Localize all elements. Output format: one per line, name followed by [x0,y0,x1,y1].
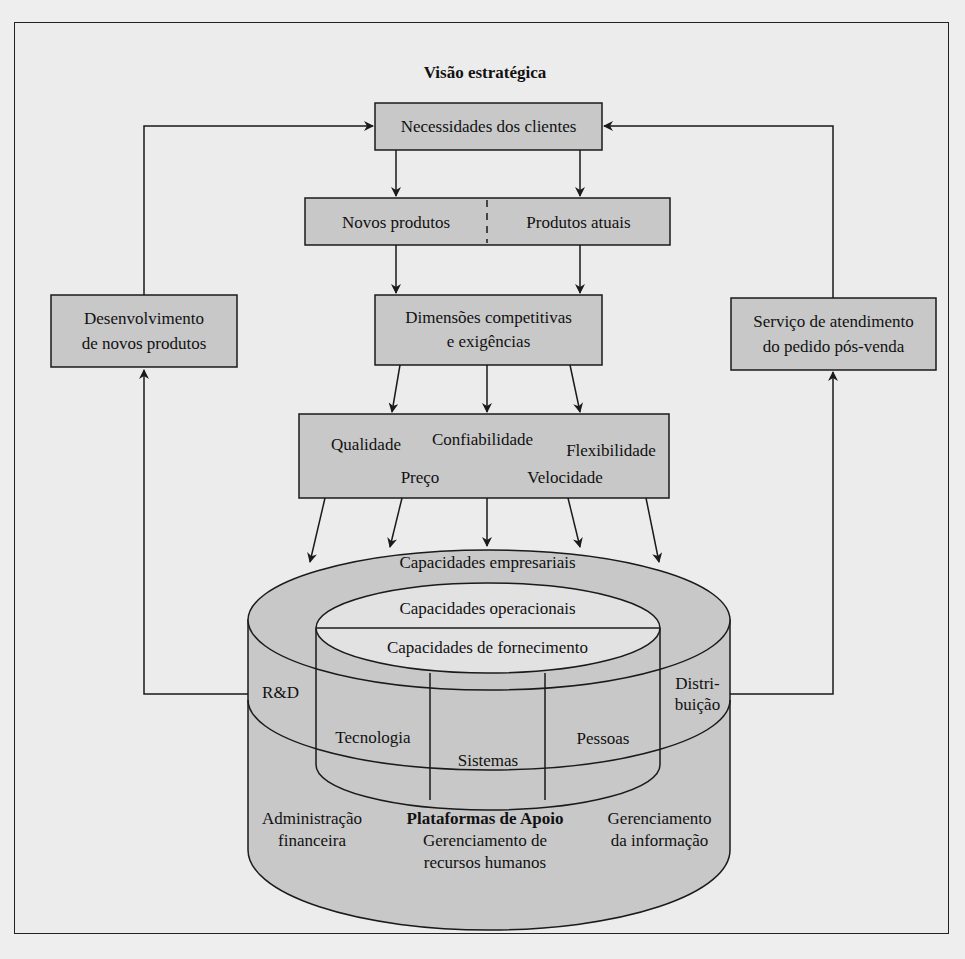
service-label-1: Serviço de atendimento [731,311,936,332]
people-label: Pessoas [547,728,659,749]
support-platforms-label: Plataformas de Apoio [380,808,590,829]
rd-label: R&D [253,682,308,703]
hr-label-2: recursos humanos [380,852,590,873]
info-label-2: da informação [592,830,727,851]
dim-quality: Qualidade [316,434,416,455]
supply-capabilities: Capacidades de fornecimento [345,637,630,658]
new-products-label: Novos produtos [305,212,487,233]
distribution-label-1: Distri- [665,673,730,694]
competitive-label-2: e exigências [375,331,602,352]
systems-label: Sistemas [432,750,544,771]
dev-box [51,295,237,367]
dim-flexibility: Flexibilidade [553,440,669,461]
finance-label-1: Administração [252,808,372,829]
enterprise-capabilities: Capacidades empresariais [370,552,605,573]
dev-label-2: de novos produtos [51,333,237,354]
competitive-label-1: Dimensões competitivas [375,307,602,328]
needs-label: Necessidades dos clientes [375,116,602,137]
dim-speed: Velocidade [515,467,615,488]
technology-label: Tecnologia [318,727,428,748]
dim-price: Preço [385,467,455,488]
service-label-2: do pedido pós-venda [731,336,936,357]
distribution-label-2: buição [665,694,730,715]
finance-label-2: financeira [252,830,372,851]
hr-label-1: Gerenciamento de [380,830,590,851]
dev-label-1: Desenvolvimento [51,308,237,329]
info-label-1: Gerenciamento [592,808,727,829]
competitive-box [375,295,602,365]
dim-reliability: Confiabilidade [415,429,550,450]
operational-capabilities: Capacidades operacionais [360,598,615,619]
diagram-title: Visão estratégica [385,62,585,83]
current-products-label: Produtos atuais [487,212,670,233]
service-box [731,298,936,370]
